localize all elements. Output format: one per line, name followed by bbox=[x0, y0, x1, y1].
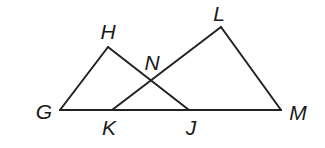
vertex-label-L: L bbox=[213, 2, 225, 25]
segment-LM bbox=[221, 27, 281, 110]
labels-group: G H J K L M N bbox=[36, 2, 307, 139]
geometry-diagram: G H J K L M N bbox=[0, 0, 325, 148]
vertex-label-K: K bbox=[102, 116, 117, 139]
vertex-label-H: H bbox=[100, 20, 116, 43]
segments-group bbox=[60, 27, 281, 110]
intersection-label-N: N bbox=[144, 51, 160, 74]
vertex-label-J: J bbox=[185, 116, 197, 139]
segment-GH bbox=[60, 47, 108, 110]
vertex-label-G: G bbox=[36, 100, 52, 123]
vertex-label-M: M bbox=[289, 101, 307, 124]
segment-KL bbox=[112, 27, 221, 110]
